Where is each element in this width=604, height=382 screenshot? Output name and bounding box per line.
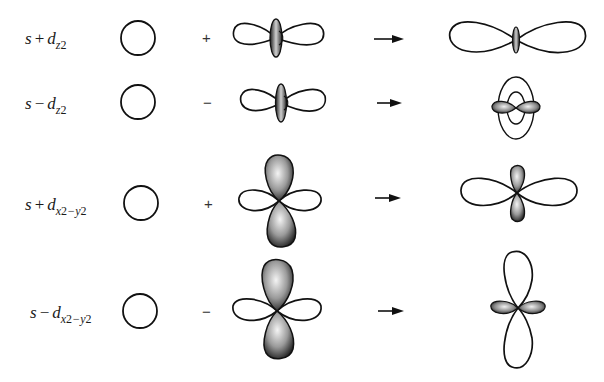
s-orbital-circle [121,85,155,119]
label-d: d [47,29,56,48]
subscript-minus-y: −y [72,312,85,326]
label-d: d [47,94,56,113]
dz2-orbital [241,84,326,122]
label-s: s [30,303,37,322]
label-operator: + [32,29,48,48]
hybrid-result-1 [450,22,586,53]
dx2-y2-orbital [239,155,321,247]
right-arrow-icon [377,99,402,107]
row-label-s-minus-dz2: s−dz2 [25,95,66,112]
row-label-s-plus-dx2-y2: s+dx2−y2 [25,196,86,213]
minus-sign: − [202,304,211,319]
label-s: s [25,29,32,48]
label-operator: + [32,195,48,214]
label-subscript: z2 [56,103,67,117]
plus-sign: + [204,196,213,211]
label-operator: − [32,94,48,113]
subscript-2: 2 [80,204,86,218]
subscript-2: 2 [60,103,66,117]
right-arrow-icon [378,307,404,315]
label-d: d [47,195,56,214]
subscript-2: 2 [60,38,66,52]
right-arrow-icon [375,194,401,202]
s-orbital-circle [121,21,155,55]
subscript-minus-y: −y [67,204,80,218]
label-s: s [25,195,32,214]
row-label-s-plus-dz2: s+dz2 [25,30,66,47]
row-label-s-minus-dx2-y2: s−dx2−y2 [30,304,91,321]
hybrid-result-2 [492,77,540,139]
row-4 [123,251,545,367]
row-3 [124,155,577,247]
label-operator: − [37,303,53,322]
row-1 [121,19,585,57]
dx2-y2-orbital [233,260,321,359]
label-d: d [52,303,61,322]
label-subscript: z2 [56,38,67,52]
minus-sign: − [203,95,212,110]
subscript-2: 2 [85,312,91,326]
label-subscript: x2−y2 [61,312,92,326]
plus-sign: + [202,30,211,45]
label-subscript: x2−y2 [56,204,87,218]
row-2 [121,77,540,139]
s-orbital-circle [123,294,157,328]
right-arrow-icon [374,35,404,43]
label-s: s [25,94,32,113]
s-orbital-circle [124,186,158,220]
hybrid-result-4 [491,251,545,367]
hybrid-result-3 [461,166,577,222]
dz2-orbital [233,19,323,57]
